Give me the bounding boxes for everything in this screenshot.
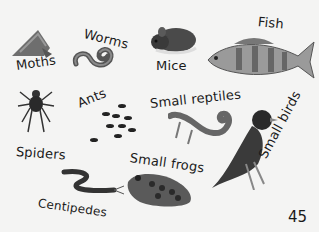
page-number: 45 — [288, 208, 307, 226]
fish-illustration — [206, 34, 316, 84]
spider-illustration — [16, 88, 56, 136]
label-centipedes: Centipedes — [37, 196, 108, 220]
worm-illustration — [70, 42, 130, 72]
label-fish: Fish — [257, 14, 284, 32]
book-page: Moths Worms Mice Fish Spiders Ants — [0, 0, 319, 232]
label-spiders: Spiders — [15, 144, 66, 162]
ants-illustration — [84, 100, 144, 148]
label-mice: Mice — [156, 58, 187, 73]
centipede-illustration — [54, 168, 126, 198]
mouse-illustration — [148, 22, 198, 56]
frog-illustration — [124, 168, 196, 210]
